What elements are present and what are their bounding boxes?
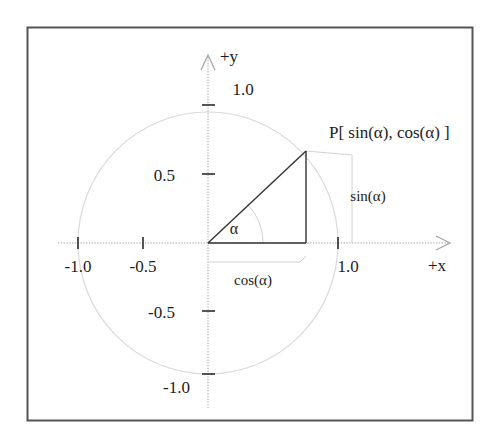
x-tick-label-pos-1: 1.0: [337, 257, 358, 276]
x-tick-label-neg-0-5: -0.5: [130, 257, 157, 276]
sin-leg-label: sin(α): [350, 188, 385, 205]
trigonometry-figure: +y +x -1.0 -0.5 1.0 1.0 0.5 -0.5 -1.0 P[…: [0, 0, 493, 434]
x-axis-label: +x: [428, 256, 447, 275]
y-tick-label-neg-1: -1.0: [163, 378, 190, 397]
angle-alpha-label: α: [230, 220, 239, 237]
cos-leg-label: cos(α): [234, 272, 272, 289]
x-tick-label-neg-1: -1.0: [65, 257, 92, 276]
y-tick-label-pos-1: 1.0: [232, 80, 253, 99]
point-p-label: P[ sin(α), cos(α) ]: [329, 123, 450, 142]
y-tick-label-neg-0-5: -0.5: [148, 303, 175, 322]
unit-circle-diagram: +y +x -1.0 -0.5 1.0 1.0 0.5 -0.5 -1.0 P[…: [0, 0, 493, 434]
y-tick-label-pos-0-5: 0.5: [154, 166, 175, 185]
y-axis-label: +y: [220, 47, 239, 66]
